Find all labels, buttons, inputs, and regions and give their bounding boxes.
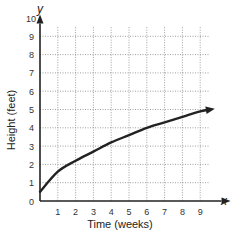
x-axis-variable: x — [220, 194, 228, 208]
x-tick-label: 7 — [162, 207, 167, 217]
x-tick-label: 4 — [109, 207, 114, 217]
y-tick-label: 1 — [29, 178, 34, 188]
y-tick-label: 8 — [29, 50, 34, 60]
y-tick-labels: 012345678910 — [26, 14, 36, 207]
data-curve — [40, 110, 211, 192]
x-tick-label: 3 — [91, 207, 96, 217]
x-tick-label: 5 — [126, 207, 131, 217]
y-axis-label: Height (feet) — [5, 90, 17, 151]
x-tick-label: 2 — [73, 207, 78, 217]
y-tick-label: 0 — [29, 197, 34, 207]
grid — [40, 27, 209, 201]
x-tick-label: 6 — [144, 207, 149, 217]
y-tick-label: 3 — [29, 142, 34, 152]
x-tick-label: 1 — [55, 207, 60, 217]
y-tick-label: 7 — [29, 68, 34, 78]
y-axis-variable: y — [36, 2, 44, 16]
y-tick-label: 6 — [29, 87, 34, 97]
x-axis-label: Time (weeks) — [87, 218, 153, 230]
chart: 123456789 012345678910 Time (weeks) Heig… — [0, 0, 232, 234]
x-tick-label: 9 — [198, 207, 203, 217]
y-tick-label: 5 — [29, 105, 34, 115]
curve-arrow-icon — [205, 107, 215, 114]
x-tick-label: 8 — [180, 207, 185, 217]
y-tick-label: 9 — [29, 32, 34, 42]
y-tick-label: 10 — [26, 14, 36, 24]
y-tick-label: 4 — [29, 123, 34, 133]
x-tick-labels: 123456789 — [55, 207, 202, 217]
y-tick-label: 2 — [29, 160, 34, 170]
